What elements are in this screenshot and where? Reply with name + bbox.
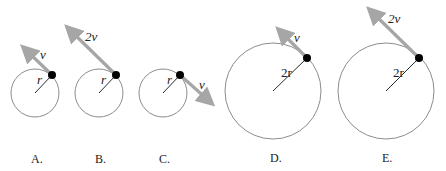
velocity-label: 2v: [388, 11, 401, 26]
caption: B.: [95, 152, 106, 166]
diagram-b: 2v r B.: [71, 29, 123, 166]
particle-dot: [112, 71, 120, 79]
particle-dot: [303, 54, 311, 62]
caption: E.: [382, 151, 392, 165]
velocity-label: v: [40, 47, 46, 62]
radius-label: 2r: [393, 65, 405, 80]
particle-dot: [176, 71, 184, 79]
diagram-d: v 2r D.: [225, 30, 321, 165]
radius-label: r: [167, 72, 173, 87]
particle-dot: [415, 54, 423, 62]
particle-dot: [48, 71, 56, 79]
circular-motion-diagram: v r A. 2v r B. v r C. v 2r D. 2v: [0, 0, 446, 171]
diagram-a: v r A.: [11, 47, 59, 166]
radius-label: r: [37, 72, 43, 87]
velocity-label: 2v: [85, 29, 98, 44]
caption: C.: [159, 152, 170, 166]
radius-label: r: [101, 72, 107, 87]
caption: D.: [270, 151, 282, 165]
velocity-label: v: [199, 77, 205, 92]
velocity-label: v: [294, 30, 300, 45]
caption: A.: [31, 152, 43, 166]
diagram-e: 2v 2r E.: [338, 11, 434, 165]
diagram-c: v r C.: [139, 69, 208, 166]
radius-label: 2r: [281, 65, 293, 80]
